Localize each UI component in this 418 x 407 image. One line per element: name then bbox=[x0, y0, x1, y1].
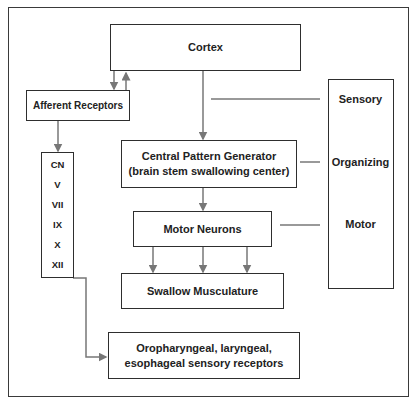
afferent-receptors-label: Afferent Receptors bbox=[33, 98, 123, 113]
swallow-musculature-label: Swallow Musculature bbox=[147, 284, 258, 299]
motor-neurons-box: Motor Neurons bbox=[133, 211, 272, 247]
cranial-nerve-label: V bbox=[54, 175, 60, 195]
sensory-receptors-line2: esophageal sensory receptors bbox=[125, 356, 284, 371]
stage-organizing: Organizing bbox=[328, 156, 393, 168]
sensory-receptors-box: Oropharyngeal, laryngeal, esophageal sen… bbox=[108, 332, 300, 379]
stages-box bbox=[328, 79, 394, 289]
central-pattern-generator-box: Central Pattern Generator (brain stem sw… bbox=[121, 140, 297, 188]
motor-neurons-label: Motor Neurons bbox=[163, 222, 241, 237]
cortex-label: Cortex bbox=[188, 40, 223, 55]
afferent-receptors-box: Afferent Receptors bbox=[26, 90, 130, 121]
stage-motor: Motor bbox=[328, 218, 393, 230]
cpg-subtitle: (brain stem swallowing center) bbox=[129, 164, 290, 179]
cranial-nerve-label: VII bbox=[52, 195, 64, 215]
sensory-receptors-line1: Oropharyngeal, laryngeal, bbox=[136, 341, 272, 356]
cranial-nerves-box: CN V VII IX X XII bbox=[41, 152, 74, 278]
cpg-title: Central Pattern Generator bbox=[142, 149, 276, 164]
cranial-nerve-label: IX bbox=[53, 215, 62, 235]
cranial-nerve-label: CN bbox=[51, 155, 65, 175]
stage-sensory: Sensory bbox=[328, 93, 393, 105]
swallow-musculature-box: Swallow Musculature bbox=[121, 273, 284, 309]
cranial-nerve-label: XII bbox=[52, 255, 64, 275]
cranial-nerve-label: X bbox=[54, 235, 60, 255]
cortex-box: Cortex bbox=[110, 24, 301, 71]
